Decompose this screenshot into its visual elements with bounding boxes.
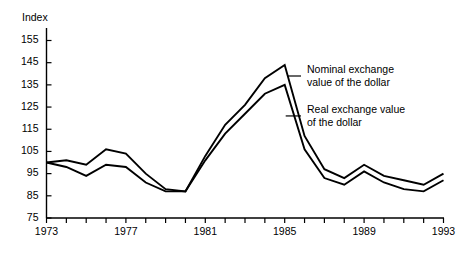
annotation-nominal-line1: Nominal exchange: [307, 63, 394, 75]
x-tick-labels: 197319771981198519891993: [35, 225, 456, 237]
y-tick-label: 155: [21, 33, 39, 45]
x-tick-marks: [47, 218, 444, 223]
y-tick-label: 115: [22, 122, 39, 134]
y-tick-label: 145: [21, 55, 39, 67]
y-tick-label: 85: [27, 189, 39, 201]
x-tick-label: 1977: [114, 225, 138, 237]
y-axis-title: Index: [22, 11, 48, 23]
x-tick-label: 1993: [432, 225, 456, 237]
y-tick-label: 105: [21, 144, 39, 156]
x-tick-label: 1985: [273, 225, 297, 237]
chart-container: 758595105115125135145155 197319771981198…: [0, 0, 457, 257]
y-tick-marks: [47, 41, 52, 219]
annotation-real-line1: Real exchange value: [307, 103, 405, 115]
annotations-group: Nominal exchangevalue of the dollarReal …: [286, 63, 406, 128]
x-tick-label: 1989: [352, 225, 376, 237]
y-tick-label: 95: [27, 166, 39, 178]
y-tick-labels: 758595105115125135145155: [21, 33, 39, 223]
line-chart: 758595105115125135145155 197319771981198…: [0, 0, 457, 257]
annotation-nominal-line2: value of the dollar: [307, 76, 390, 88]
annotation-real-line2: of the dollar: [307, 116, 362, 128]
y-tick-label: 125: [21, 100, 39, 112]
y-tick-label: 75: [27, 211, 39, 223]
x-tick-label: 1973: [35, 225, 59, 237]
x-tick-label: 1981: [194, 225, 218, 237]
y-tick-label: 135: [21, 78, 39, 90]
